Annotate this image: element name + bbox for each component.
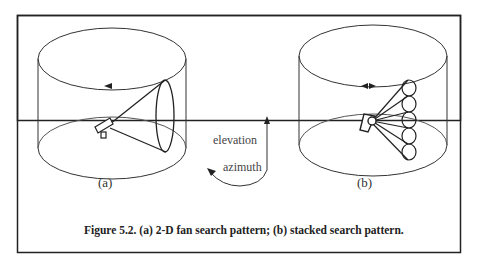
panel-a-label: (a) bbox=[98, 175, 112, 191]
radar-antenna-icon bbox=[360, 114, 376, 132]
elevation-label: elevation bbox=[213, 133, 257, 148]
panel-a-cylinder bbox=[38, 28, 186, 179]
panel-b-label: (b) bbox=[357, 175, 372, 191]
elevation-azimuth-arrows bbox=[210, 122, 267, 186]
azimuth-label: azimuth bbox=[223, 160, 262, 175]
figure-caption: Figure 5.2. (a) 2-D fan search pattern; … bbox=[84, 224, 404, 236]
rotation-arrow-icon bbox=[104, 83, 112, 89]
panel-b-cylinder bbox=[299, 25, 447, 176]
figure-border bbox=[18, 16, 461, 121]
azimuth-arrow-icon bbox=[207, 168, 216, 176]
double-arrow-icon bbox=[361, 83, 376, 89]
panel-a-fan-beam bbox=[110, 80, 174, 152]
